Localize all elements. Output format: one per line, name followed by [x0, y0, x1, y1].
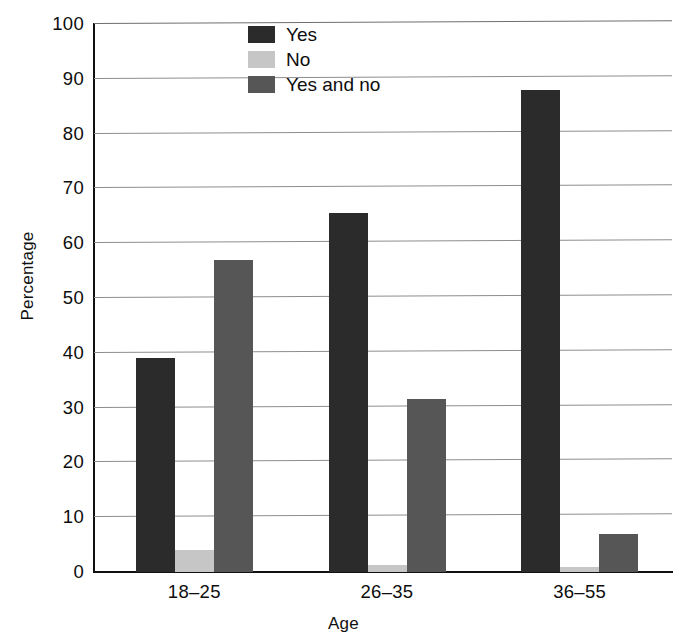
y-tick-label-80: 80 [30, 125, 84, 143]
legend-label-2: No [286, 50, 310, 69]
y-tick-label-90: 90 [30, 70, 84, 88]
x-category-label-1: 18–25 [114, 581, 274, 603]
bar-yes-18–25 [136, 358, 175, 572]
gridline-40 [94, 349, 672, 353]
bar-yes-and-no-36–55 [599, 534, 638, 572]
bar-yes-and-no-26–35 [407, 399, 446, 572]
y-axis-tick-labels: 0102030405060708090100 [22, 0, 84, 643]
gridline-80 [94, 130, 672, 134]
chart-legend: YesNoYes and no [248, 22, 458, 97]
y-tick-label-60: 60 [30, 234, 84, 252]
plot-area [94, 24, 672, 572]
x-category-label-2: 26–35 [307, 581, 467, 603]
x-axis-title: Age [0, 614, 687, 634]
legend-item-yes: Yes [248, 22, 458, 47]
y-tick-label-0: 0 [30, 563, 84, 581]
gridline-50 [94, 294, 672, 298]
gridline-30 [94, 404, 672, 408]
y-tick-label-40: 40 [30, 344, 84, 362]
gridline-20 [94, 459, 672, 463]
legend-label-1: Yes [286, 25, 317, 44]
bar-chart: Percentage 0102030405060708090100 YesNoY… [0, 0, 687, 643]
legend-swatch-icon-2 [248, 51, 275, 68]
legend-item-no: No [248, 47, 458, 72]
gridline-60 [94, 239, 672, 243]
legend-item-yes-and-no: Yes and no [248, 72, 458, 97]
gridline-70 [94, 185, 672, 189]
y-tick-label-50: 50 [30, 289, 84, 307]
bar-no-36–55 [560, 567, 599, 572]
bar-yes-26–35 [329, 213, 368, 572]
gridline-10 [94, 513, 672, 517]
bar-no-18–25 [175, 550, 214, 572]
y-tick-label-70: 70 [30, 179, 84, 197]
legend-label-3: Yes and no [286, 75, 380, 94]
legend-swatch-icon-3 [248, 76, 275, 93]
bar-yes-36–55 [521, 90, 560, 572]
bar-no-26–35 [368, 565, 407, 572]
y-tick-label-10: 10 [30, 508, 84, 526]
x-category-label-3: 36–55 [500, 581, 660, 603]
y-tick-label-100: 100 [30, 15, 84, 33]
y-tick-label-30: 30 [30, 399, 84, 417]
y-tick-label-20: 20 [30, 453, 84, 471]
bar-yes-and-no-18–25 [214, 260, 253, 572]
legend-swatch-icon-1 [248, 26, 275, 43]
